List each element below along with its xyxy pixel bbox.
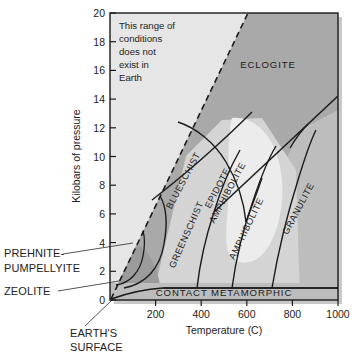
callout-earth-surface-line2: SURFACE bbox=[70, 341, 123, 353]
x-tick-label-400: 400 bbox=[192, 308, 210, 320]
x-tick-label-1000: 1000 bbox=[326, 308, 350, 320]
callout-earth-surface-line1: EARTH'S bbox=[70, 327, 117, 339]
y-tick-label-8: 8 bbox=[99, 179, 105, 191]
y-tick-label-18: 18 bbox=[93, 36, 105, 48]
note-line-5: Earth bbox=[119, 72, 142, 83]
y-tick-label-2: 2 bbox=[99, 265, 105, 277]
callout-prehnite-line2: PUMPELLYITE bbox=[4, 262, 80, 274]
diagram-svg: 20 18 16 14 12 10 8 6 4 2 0 Kilobars of … bbox=[0, 0, 358, 360]
note-line-2: conditions bbox=[119, 33, 162, 44]
y-tick-label-6: 6 bbox=[99, 208, 105, 220]
callout-zeolite: ZEOLITE bbox=[4, 285, 51, 297]
x-tick-label-200: 200 bbox=[147, 308, 165, 320]
x-axis-title: Temperature (C) bbox=[186, 324, 262, 336]
callout-prehnite-line1: PREHNITE- bbox=[4, 247, 64, 259]
facies-label-eclogite: ECLOGITE bbox=[240, 59, 296, 70]
x-tick-label-800: 800 bbox=[284, 308, 302, 320]
y-axis-title: Kilobars of pressure bbox=[70, 109, 82, 203]
y-tick-label-20: 20 bbox=[93, 7, 105, 19]
note-line-1: This range of bbox=[119, 20, 175, 31]
x-tick-label-600: 600 bbox=[238, 308, 256, 320]
y-tick-label-16: 16 bbox=[93, 64, 105, 76]
y-tick-label-12: 12 bbox=[93, 122, 105, 134]
metamorphic-facies-diagram: 20 18 16 14 12 10 8 6 4 2 0 Kilobars of … bbox=[0, 0, 358, 360]
note-line-4: exist in bbox=[119, 59, 149, 70]
note-line-3: does not bbox=[119, 46, 156, 57]
y-tick-label-10: 10 bbox=[93, 151, 105, 163]
y-tick-label-14: 14 bbox=[93, 93, 105, 105]
x-axis: 200 400 600 800 1000 Temperature (C) bbox=[147, 300, 350, 336]
facies-label-contact-metamorphic: CONTACT METAMORPHIC bbox=[156, 287, 293, 298]
y-tick-label-0: 0 bbox=[99, 294, 105, 306]
y-tick-label-4: 4 bbox=[99, 237, 105, 249]
